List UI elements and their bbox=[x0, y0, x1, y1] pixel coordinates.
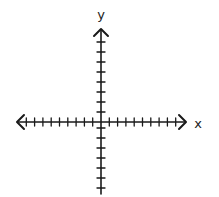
coordinate-plane: x y bbox=[0, 0, 219, 197]
x-axis-label: x bbox=[194, 116, 202, 131]
y-axis-label: y bbox=[97, 7, 105, 22]
